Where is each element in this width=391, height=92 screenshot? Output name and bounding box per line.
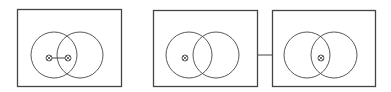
circled-cross-icon (46, 55, 52, 61)
left-circle (31, 32, 77, 78)
panel-3 (273, 11, 376, 87)
panel-2 (154, 11, 258, 87)
panel-frame (18, 10, 122, 87)
venn-diagram-panels (0, 0, 391, 92)
circled-cross-icon (318, 55, 324, 61)
left-circle (284, 32, 330, 78)
circled-cross-icon (182, 55, 188, 61)
right-circle (57, 32, 103, 78)
panel-frame (273, 11, 376, 87)
panel-1 (18, 10, 122, 87)
right-circle (311, 32, 357, 78)
circled-cross-icon (65, 55, 71, 61)
right-circle (193, 32, 239, 78)
left-circle (166, 32, 212, 78)
